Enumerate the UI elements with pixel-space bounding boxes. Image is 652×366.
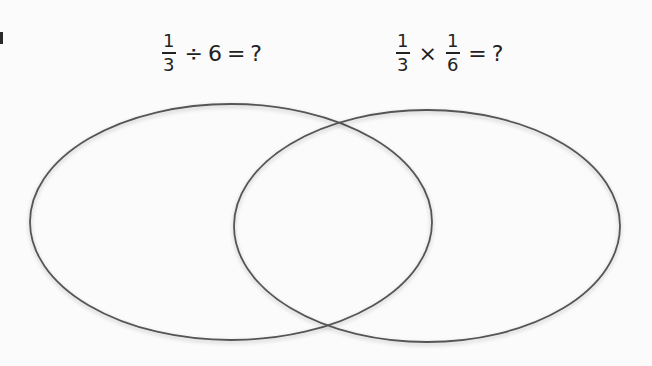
multiply-sign: × [418, 41, 437, 66]
denominator: 3 [161, 56, 177, 74]
fraction-one-third: 1 3 [395, 32, 411, 74]
numerator: 1 [161, 32, 177, 50]
divide-sign: ÷ [184, 41, 203, 66]
left-set-label: 1 3 ÷ 6 = ? [158, 32, 263, 74]
equals-sign: = [227, 41, 246, 66]
left-set-ellipse [30, 104, 432, 340]
fraction-one-sixth: 1 6 [445, 32, 461, 74]
right-set-label: 1 3 × 1 6 = ? [392, 32, 504, 74]
operand: 6 [208, 41, 223, 66]
right-set-ellipse [234, 110, 620, 342]
result-placeholder: ? [250, 41, 263, 66]
result-placeholder: ? [492, 41, 505, 66]
numerator: 1 [395, 32, 411, 50]
denominator: 6 [445, 56, 461, 74]
venn-ellipses [0, 0, 652, 366]
fraction-one-third: 1 3 [161, 32, 177, 74]
equals-sign: = [468, 41, 487, 66]
numerator: 1 [445, 32, 461, 50]
denominator: 3 [395, 56, 411, 74]
venn-diagram: 1 3 ÷ 6 = ? 1 3 × 1 6 = ? [0, 0, 652, 366]
